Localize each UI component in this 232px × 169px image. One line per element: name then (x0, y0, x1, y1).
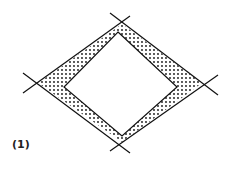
figure-label: (1) (12, 138, 30, 151)
inner-rhombus (64, 32, 177, 136)
rhombus-diagram (0, 0, 232, 169)
